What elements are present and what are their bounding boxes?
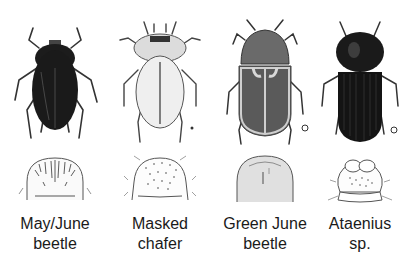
species-column-masked-chafer: Masked chafer <box>110 0 210 272</box>
green-june-beetle-adult-illustration <box>215 10 315 150</box>
ataenius-adult-illustration <box>310 10 410 150</box>
species-label-ataenius: Ataenius sp. <box>300 214 411 254</box>
label-line-1: May/June <box>0 214 115 234</box>
masked-chafer-adult-illustration <box>110 10 210 150</box>
may-june-beetle-raster-illustration <box>15 152 95 208</box>
label-line-1: Masked <box>100 214 220 234</box>
species-column-ataenius: Ataenius sp. <box>310 0 410 272</box>
ataenius-raster-illustration <box>320 152 400 208</box>
species-label-masked-chafer: Masked chafer <box>100 214 220 254</box>
species-label-may-june-beetle: May/June beetle <box>0 214 115 254</box>
species-column-may-june-beetle: May/June beetle <box>5 0 105 272</box>
masked-chafer-raster-illustration <box>120 152 200 208</box>
may-june-beetle-adult-illustration <box>5 10 105 150</box>
label-line-1: Ataenius <box>300 214 411 234</box>
label-line-2: sp. <box>300 234 411 254</box>
label-line-2: chafer <box>100 234 220 254</box>
label-line-2: beetle <box>0 234 115 254</box>
green-june-beetle-raster-illustration <box>225 152 305 208</box>
